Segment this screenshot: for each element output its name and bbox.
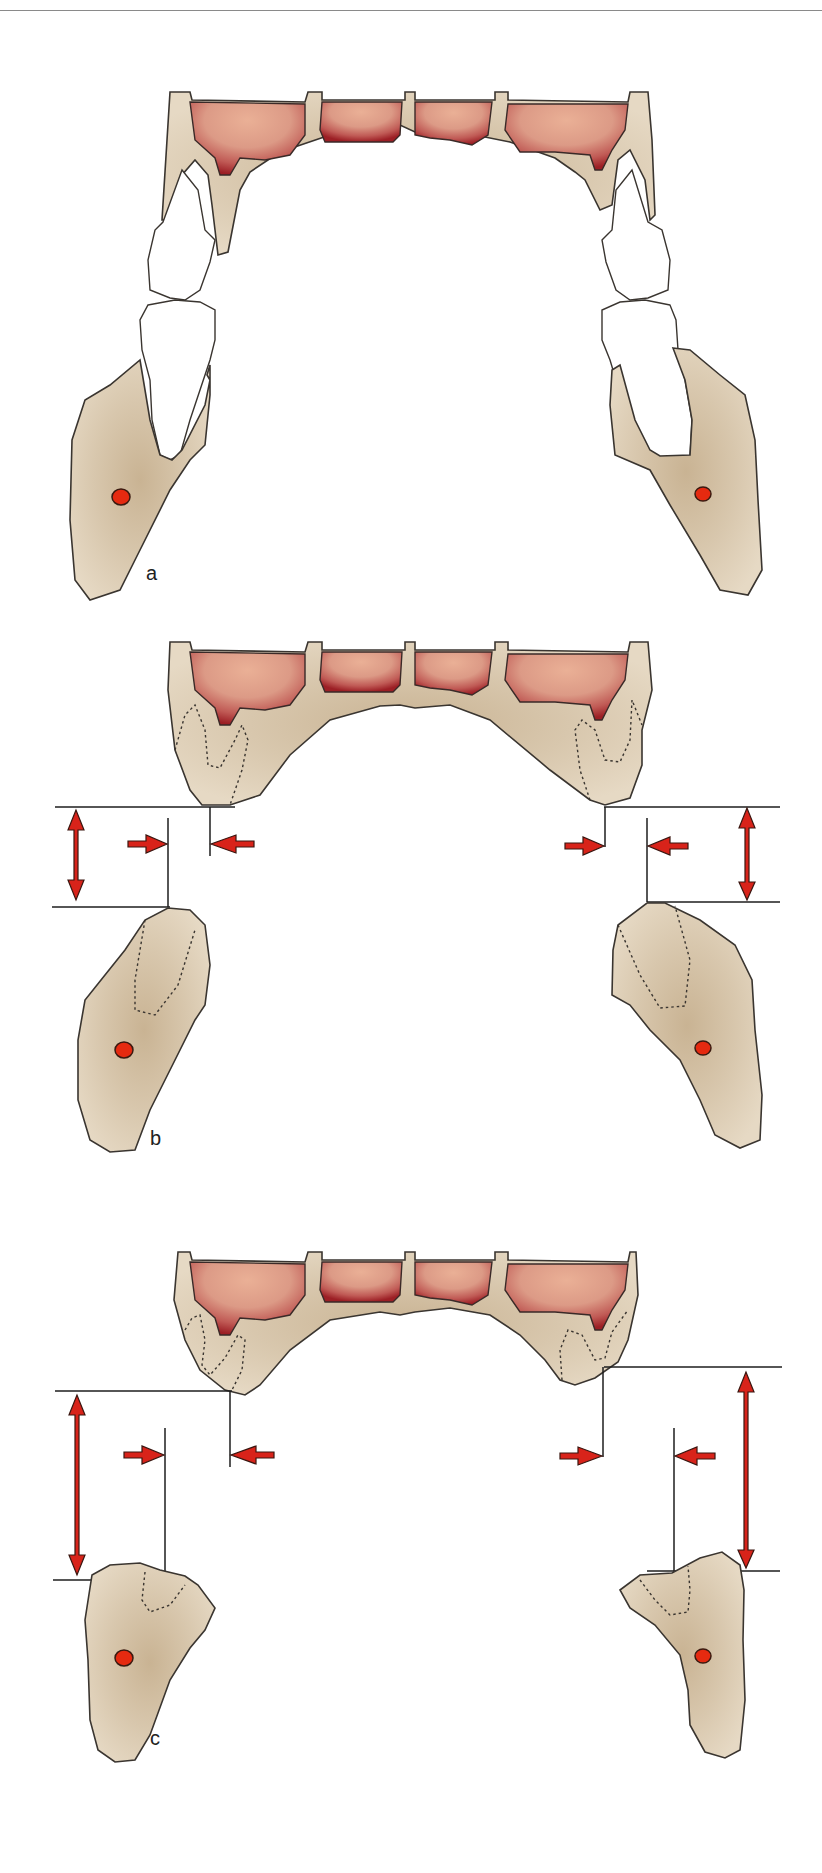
horizontal-arrow-right-icon — [565, 837, 604, 855]
horizontal-arrow-right-icon — [128, 835, 167, 853]
panel-label-c: c — [150, 1727, 160, 1749]
nerve-canal-icon — [115, 1650, 133, 1666]
nerve-canal-icon — [695, 487, 711, 501]
nerve-canal-icon — [112, 489, 130, 505]
dental-ridge-diagram: a — [0, 0, 822, 1873]
horizontal-arrow-left-icon — [231, 1446, 274, 1464]
panel-c: c — [53, 1252, 782, 1762]
panel-b: b — [52, 642, 780, 1152]
panel-label-b: b — [150, 1127, 161, 1149]
vertical-distance-arrow-icon — [739, 808, 755, 900]
horizontal-arrow-left-icon — [675, 1447, 715, 1465]
panel-a: a — [70, 92, 762, 600]
nerve-canal-icon — [115, 1042, 133, 1058]
panel-label-a: a — [146, 562, 158, 584]
vertical-distance-arrow-icon — [69, 1395, 85, 1575]
vertical-distance-arrow-icon — [68, 810, 84, 900]
nerve-canal-icon — [695, 1649, 711, 1663]
nerve-canal-icon — [695, 1041, 711, 1055]
horizontal-arrow-left-icon — [211, 835, 254, 853]
horizontal-arrow-left-icon — [648, 837, 688, 855]
horizontal-arrow-right-icon — [124, 1446, 164, 1464]
vertical-distance-arrow-icon — [738, 1372, 754, 1568]
horizontal-arrow-right-icon — [560, 1447, 602, 1465]
